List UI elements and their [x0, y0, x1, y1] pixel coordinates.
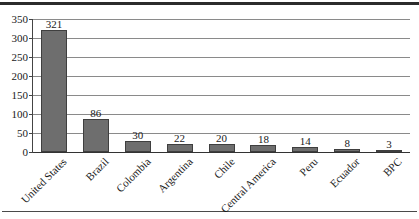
y-axis-tick-mark [29, 133, 33, 134]
gridline [33, 38, 410, 39]
y-axis-tick-label: 0 [23, 147, 29, 158]
bar-value-label: 86 [90, 108, 101, 119]
x-axis-category-label: Peru [298, 156, 320, 178]
x-axis-category-label: Brazil [84, 156, 111, 183]
bar-value-label: 14 [300, 136, 311, 147]
bar-brazil[interactable]: 86 [83, 119, 109, 152]
y-axis-tick-label: 50 [17, 128, 28, 139]
bar-value-label: 20 [216, 133, 227, 144]
gridline [33, 19, 410, 20]
bar-value-label: 18 [258, 134, 269, 145]
y-axis-tick-label: 250 [12, 52, 29, 63]
top-rule-divider [0, 2, 419, 5]
bar-chile[interactable]: 20 [209, 144, 235, 152]
gridline [33, 57, 410, 58]
bar-value-label: 8 [344, 138, 350, 149]
bar-value-label: 321 [46, 19, 63, 30]
y-axis-tick-mark [29, 57, 33, 58]
x-axis-category-label: Argentina [156, 156, 195, 195]
x-axis-category-label: United States [19, 156, 68, 205]
bar-ecuador[interactable]: 8 [334, 149, 360, 152]
bar-bpc[interactable]: 3 [376, 150, 402, 152]
y-axis-tick-label: 150 [12, 90, 29, 101]
y-axis-tick-mark [29, 114, 33, 115]
y-axis-tick-label: 350 [12, 14, 29, 25]
gridline [33, 95, 410, 96]
y-axis-tick-mark [29, 38, 33, 39]
x-axis-category-label: BPC [381, 156, 403, 178]
y-axis-tick-mark [29, 76, 33, 77]
bar-central-america[interactable]: 18 [250, 145, 276, 152]
y-axis-tick-label: 100 [12, 109, 29, 120]
chart-figure: 05010015020025030035032186302220181483 U… [0, 0, 419, 219]
bar-argentina[interactable]: 22 [167, 144, 193, 152]
x-axis-category-label: Ecuador [328, 156, 362, 190]
bar-colombia[interactable]: 30 [125, 141, 151, 152]
y-axis-tick-label: 200 [12, 71, 29, 82]
x-axis-category-label: Chile [212, 156, 237, 181]
y-axis-tick-mark [29, 152, 33, 153]
y-axis-tick-mark [29, 19, 33, 20]
bar-peru[interactable]: 14 [292, 147, 318, 152]
x-axis-category-label: Colombia [114, 156, 152, 194]
bar-united-states[interactable]: 321 [41, 30, 67, 152]
y-axis-tick-label: 300 [12, 33, 29, 44]
gridline [33, 152, 410, 153]
y-axis-tick-mark [29, 95, 33, 96]
bottom-rule-divider [2, 211, 417, 212]
bar-value-label: 3 [386, 139, 392, 150]
plot-area: 05010015020025030035032186302220181483 [33, 19, 410, 152]
bar-value-label: 22 [174, 133, 185, 144]
bar-value-label: 30 [132, 130, 143, 141]
gridline [33, 76, 410, 77]
